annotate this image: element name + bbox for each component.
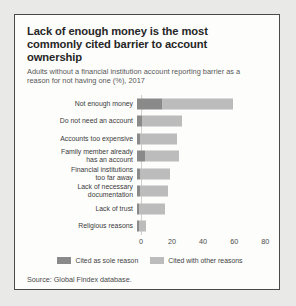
bar-row: Lack of trust (27, 200, 273, 218)
bar-segment-other (142, 116, 182, 127)
chart-subtitle: Adults without a financial institution a… (27, 67, 253, 86)
stacked-bar (137, 98, 233, 109)
bar-segment-other (140, 133, 177, 144)
legend-label-sole: Cited as sole reason (75, 257, 138, 264)
bar-category-label: Do not need an account (27, 117, 137, 125)
bar-track (137, 148, 273, 166)
bar-segment-sole (137, 98, 162, 109)
bar-track (137, 95, 273, 113)
x-axis-tick: 0 (139, 237, 143, 246)
bar-category-label: Accounts too expensive (27, 135, 137, 143)
stacked-bar (137, 168, 170, 179)
bar-segment-other (140, 168, 170, 179)
bar-track (137, 183, 273, 201)
bar-row: Religious reasons (27, 218, 273, 236)
chart-source: Source: Global Findex database. (27, 275, 132, 284)
bar-row: Accounts too expensive (27, 130, 273, 148)
bar-segment-other (162, 98, 233, 109)
bar-segment-other (140, 186, 168, 197)
bar-track (137, 218, 273, 236)
chart-inner: Lack of enough money is the most commonl… (27, 25, 271, 285)
x-axis-tick: 80 (261, 237, 269, 246)
bar-row: Lack of necessary documentation (27, 183, 273, 201)
stacked-bar (137, 186, 168, 197)
bar-row: Not enough money (27, 95, 273, 113)
bar-track (137, 165, 273, 183)
x-axis-tick: 40 (199, 237, 207, 246)
bar-category-label: Lack of trust (27, 205, 137, 213)
bar-track (137, 200, 273, 218)
chart-title: Lack of enough money is the most commonl… (27, 25, 247, 65)
stacked-bar (137, 133, 177, 144)
bar-row: Family member already has an account (27, 148, 273, 166)
legend-item-sole: Cited as sole reason (57, 257, 138, 264)
bar-row: Financial institutions too far away (27, 165, 273, 183)
stacked-bar (137, 221, 146, 232)
bar-category-label: Not enough money (27, 100, 137, 108)
chart-legend: Cited as sole reason Cited with other re… (27, 257, 273, 264)
x-axis-tick: 60 (230, 237, 238, 246)
bar-segment-sole (137, 151, 145, 162)
x-axis-tick: 20 (168, 237, 176, 246)
legend-item-other: Cited with other reasons (150, 257, 242, 264)
bar-segment-other (145, 151, 179, 162)
legend-swatch-sole-icon (57, 257, 71, 264)
legend-swatch-other-icon (150, 257, 164, 264)
bar-chart-plot: Not enough moneyDo not need an accountAc… (27, 95, 273, 235)
bar-category-label: Lack of necessary documentation (27, 183, 137, 199)
bar-track (137, 113, 273, 131)
stacked-bar (137, 151, 179, 162)
stacked-bar (137, 203, 165, 214)
legend-label-other: Cited with other reasons (168, 257, 242, 264)
bar-category-label: Family member already has an account (27, 148, 137, 164)
x-axis: 020406080 (141, 237, 273, 251)
chart-card: Lack of enough money is the most commonl… (14, 14, 280, 290)
bar-category-label: Financial institutions too far away (27, 166, 137, 182)
bar-row: Do not need an account (27, 113, 273, 131)
bar-category-label: Religious reasons (27, 222, 137, 230)
bar-segment-other (139, 221, 147, 232)
stacked-bar (137, 116, 182, 127)
bar-track (137, 130, 273, 148)
bar-segment-other (139, 203, 165, 214)
